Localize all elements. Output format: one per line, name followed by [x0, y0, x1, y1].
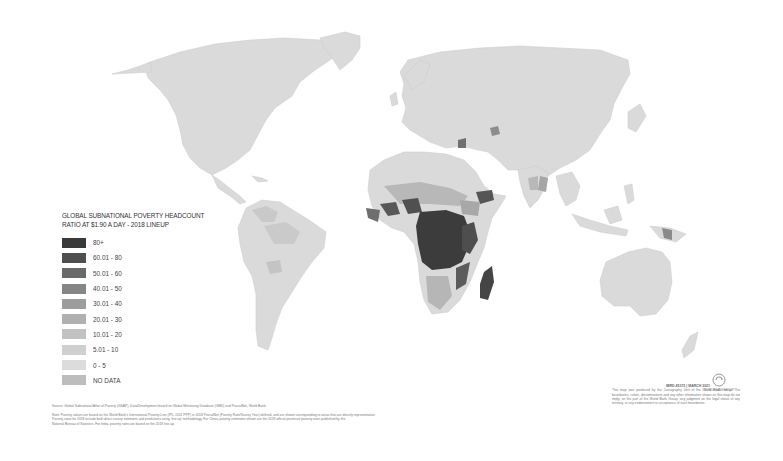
legend-item: 50.01 - 60: [62, 266, 252, 281]
legend-label: 30.01 - 40: [93, 300, 122, 307]
footer-disclaimer: IBRD 45372 | MARCH 2021 This map was pro…: [612, 384, 740, 405]
philippines: [624, 184, 634, 204]
legend-item: 40.01 - 50: [62, 281, 252, 296]
caribbean: [252, 176, 268, 182]
legend-label: 40.01 - 50: [93, 285, 122, 292]
borneo: [604, 206, 622, 224]
legend-item: 30.01 - 40: [62, 296, 252, 311]
legend-swatch: [62, 299, 86, 309]
legend-items: 80+ 60.01 - 80 50.01 - 60 40.01 - 50 30.…: [62, 235, 252, 388]
note-line: National Bureau of Statistics. For India…: [52, 422, 592, 427]
source-text: Source: Global Subnational Atlas of Pove…: [52, 404, 592, 409]
legend-label: 0 - 5: [93, 362, 106, 369]
legend-swatch: [62, 360, 86, 370]
legend-label: NO DATA: [93, 377, 120, 384]
central-america: [212, 175, 246, 204]
legend-label: 5.01 - 10: [93, 346, 118, 353]
legend-item: NO DATA: [62, 373, 252, 388]
new-zealand: [682, 332, 698, 358]
legend-swatch: [62, 314, 86, 324]
alaska: [112, 62, 152, 74]
legend-label: 60.01 - 80: [93, 254, 122, 261]
legend-item: 20.01 - 30: [62, 311, 252, 326]
southeast-asia: [556, 172, 580, 206]
disclaimer-text: This map was produced by the Cartography…: [612, 388, 740, 405]
legend-swatch: [62, 238, 86, 248]
madagascar: [480, 266, 494, 300]
north-america: [145, 38, 345, 175]
region-ethiopia: [460, 200, 480, 216]
footer-notes: Source: Global Subnational Atlas of Pove…: [52, 404, 592, 426]
legend-item: 5.01 - 10: [62, 342, 252, 357]
legend-title-line1: GLOBAL SUBNATIONAL POVERTY HEADCOUNT: [62, 211, 252, 220]
australia: [600, 248, 672, 316]
legend-swatch: [62, 375, 86, 385]
legend-swatch: [62, 284, 86, 294]
region-central-africa: [416, 210, 470, 270]
legend-swatch: [62, 345, 86, 355]
legend-swatch: [62, 329, 86, 339]
legend-item: 10.01 - 20: [62, 327, 252, 342]
legend-label: 80+: [93, 239, 104, 246]
region-guinea-coast: [366, 208, 380, 222]
legend: GLOBAL SUBNATIONAL POVERTY HEADCOUNT RAT…: [62, 211, 252, 388]
legend-swatch: [62, 253, 86, 263]
legend-swatch: [62, 268, 86, 278]
legend-item: 60.01 - 80: [62, 250, 252, 265]
legend-label: 10.01 - 20: [93, 331, 122, 338]
japan: [628, 104, 646, 132]
uk: [390, 92, 398, 106]
legend-label: 20.01 - 30: [93, 316, 122, 323]
legend-item: 80+: [62, 235, 252, 250]
legend-label: 50.01 - 60: [93, 270, 122, 277]
legend-item: 0 - 5: [62, 357, 252, 372]
legend-title-line2: RATIO AT $1.90 A DAY - 2018 LINEUP: [62, 220, 252, 229]
